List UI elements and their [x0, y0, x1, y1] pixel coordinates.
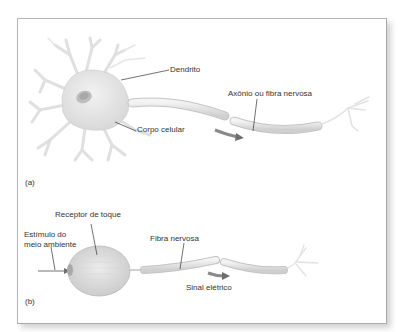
cell-body: [62, 70, 129, 130]
label-cell-body: Corpo celular: [137, 125, 185, 135]
signal-arrow-a: [215, 130, 238, 137]
label-dendrite: Dendrito: [170, 65, 200, 75]
axon-terminal: [322, 97, 369, 131]
label-electric-signal: Sinal elétrico: [186, 283, 232, 293]
label-stimulus-line1: Estímulo do: [24, 230, 66, 240]
label-stimulus-line2: meio ambiente: [24, 240, 76, 250]
label-axon: Axônio ou fibra nervosa: [228, 89, 312, 99]
touch-receptor: [68, 246, 130, 296]
label-nerve-fiber: Fibra nervosa: [150, 234, 199, 244]
label-touch-receptor: Receptor de toque: [55, 210, 121, 220]
signal-arrow-b: [208, 273, 224, 276]
panel-b-letter: (b): [25, 297, 35, 307]
panel-a-letter: (a): [25, 178, 35, 188]
nerve-terminal-b: [288, 245, 318, 276]
